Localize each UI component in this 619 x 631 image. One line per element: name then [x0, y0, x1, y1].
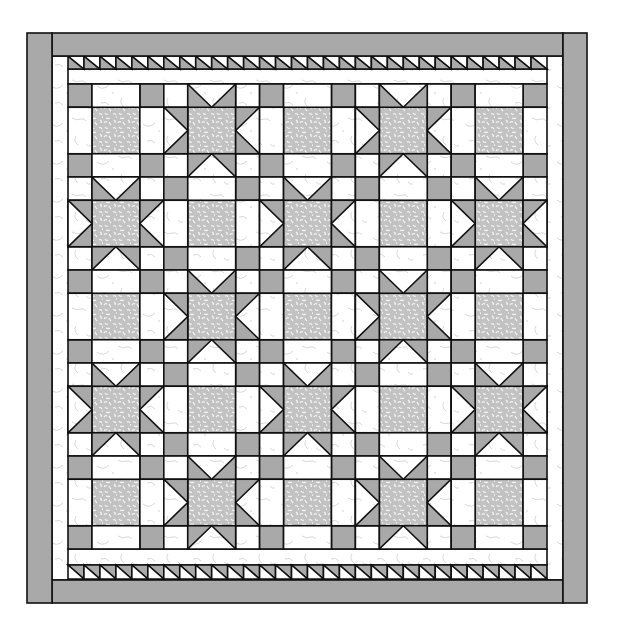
sawtooth-top [68, 56, 547, 69]
block-corner [523, 247, 547, 270]
sawtooth-triangle-square [100, 56, 116, 69]
sawtooth-triangle-square [483, 565, 499, 579]
block-corner [140, 363, 164, 386]
block-corner [68, 247, 92, 270]
block-corner [260, 247, 284, 270]
block-center-speckle [188, 479, 236, 526]
block-edge [379, 177, 427, 200]
star-block [68, 363, 164, 456]
sawtooth-triangle-square [435, 565, 451, 579]
block-corner [236, 177, 260, 200]
nine-patch-block [451, 84, 547, 177]
block-corner [451, 433, 475, 456]
block-corner [427, 177, 451, 200]
block-edge [188, 433, 236, 456]
block-corner [355, 84, 379, 107]
sawtooth-triangle-square [435, 56, 451, 69]
block-corner [355, 340, 379, 363]
block-center-speckle [475, 479, 523, 526]
block-edge [260, 479, 284, 526]
block-center-speckle [188, 200, 236, 247]
block-edge [331, 107, 355, 154]
sawtooth-triangle-square [180, 565, 196, 579]
block-corner [451, 247, 475, 270]
block-corner [260, 433, 284, 456]
block-corner [140, 154, 164, 177]
block-corner [68, 526, 92, 549]
block-corner [523, 270, 547, 293]
block-corner [331, 363, 355, 386]
block-center-speckle [379, 293, 427, 340]
block-edge [236, 200, 260, 247]
block-corner [331, 154, 355, 177]
block-corner [427, 84, 451, 107]
sawtooth-triangle-square [308, 56, 324, 69]
block-corner [164, 340, 188, 363]
block-corner [523, 456, 547, 479]
block-corner [236, 84, 260, 107]
block-edge [140, 107, 164, 154]
block-corner [427, 340, 451, 363]
block-corner [260, 363, 284, 386]
block-edge [475, 270, 523, 293]
sawtooth-triangle-square [292, 565, 308, 579]
nine-patch-block [164, 177, 260, 270]
block-edge [92, 270, 140, 293]
block-edge [475, 456, 523, 479]
block-corner [355, 177, 379, 200]
block-corner [331, 433, 355, 456]
nine-patch-block [451, 270, 547, 363]
block-corner [260, 177, 284, 200]
sawtooth-triangle-square [116, 565, 132, 579]
sawtooth-triangle-square [467, 565, 483, 579]
star-block [164, 456, 260, 549]
sawtooth-triangle-square [260, 56, 276, 69]
block-corner [236, 456, 260, 479]
star-block [260, 177, 356, 270]
block-corner [260, 340, 284, 363]
star-block [164, 270, 260, 363]
sawtooth-triangle-square [276, 56, 292, 69]
block-edge [140, 479, 164, 526]
block-edge [451, 479, 475, 526]
block-corner [68, 84, 92, 107]
block-corner [451, 270, 475, 293]
sawtooth-triangle-square [196, 565, 212, 579]
block-corner [451, 84, 475, 107]
outer-border-bottom [52, 580, 563, 603]
nine-patch-block [68, 270, 164, 363]
block-edge [260, 107, 284, 154]
sawtooth-triangle-square [339, 565, 355, 579]
sawtooth-triangle-square [148, 56, 164, 69]
sawtooth-triangle-square [403, 565, 419, 579]
sawtooth-triangle-square [164, 565, 180, 579]
sawtooth-triangle-square [244, 565, 260, 579]
block-corner [427, 270, 451, 293]
block-edge [475, 154, 523, 177]
sawtooth-triangle-square [228, 56, 244, 69]
sawtooth-triangle-square [355, 56, 371, 69]
sawtooth-triangle-square [419, 565, 435, 579]
block-center-speckle [284, 479, 332, 526]
block-corner [427, 456, 451, 479]
sawtooth-triangle-square [531, 56, 547, 69]
block-edge [188, 363, 236, 386]
sawtooth-triangle-square [387, 56, 403, 69]
block-edge [140, 293, 164, 340]
nine-patch-block [355, 363, 451, 456]
sawtooth-triangle-square [84, 565, 100, 579]
block-edge [284, 84, 332, 107]
sawtooth-triangle-square [84, 56, 100, 69]
block-edge [523, 293, 547, 340]
block-edge [188, 177, 236, 200]
block-edge [331, 293, 355, 340]
block-corner [140, 456, 164, 479]
star-block [68, 177, 164, 270]
block-edge [379, 247, 427, 270]
sawtooth-triangle-square [339, 56, 355, 69]
sawtooth-triangle-square [260, 565, 276, 579]
block-corner [331, 526, 355, 549]
block-edge [92, 340, 140, 363]
sawtooth-triangle-square [387, 565, 403, 579]
block-center-speckle [188, 107, 236, 154]
